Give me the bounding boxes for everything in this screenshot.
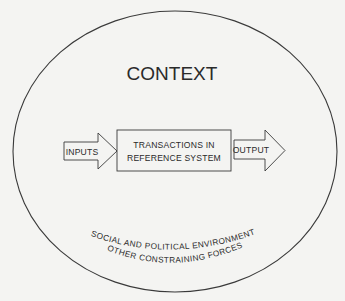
process-box-frame <box>117 130 231 171</box>
context-diagram: CONTEXT INPUTS TRANSACTIONS IN REFERENCE… <box>0 0 345 301</box>
process-box: TRANSACTIONS IN REFERENCE SYSTEM <box>117 130 231 171</box>
process-box-line1: TRANSACTIONS IN <box>133 140 214 150</box>
context-label: CONTEXT <box>127 63 218 84</box>
input-arrow: INPUTS <box>64 133 117 169</box>
input-arrow-label: INPUTS <box>66 147 99 157</box>
process-box-line2: REFERENCE SYSTEM <box>127 153 221 163</box>
diagram-canvas: CONTEXT INPUTS TRANSACTIONS IN REFERENCE… <box>0 0 345 301</box>
output-arrow: OUTPUT <box>233 130 285 171</box>
output-arrow-label: OUTPUT <box>233 145 270 155</box>
